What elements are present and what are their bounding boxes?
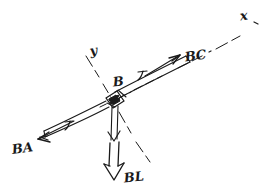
diagram-svg: B x y BA BC BL: [0, 0, 270, 192]
load-label-bl: BL: [122, 168, 145, 185]
load-label-bl-group: BL: [122, 168, 145, 185]
force-label-ba: BA: [10, 139, 34, 157]
force-label-ba-group: BA: [10, 139, 34, 157]
joint-label-b: B: [111, 73, 125, 89]
force-label-bc-group: BC: [183, 46, 208, 64]
paper-background: [0, 0, 270, 192]
force-label-bc: BC: [183, 46, 208, 64]
free-body-diagram-canvas: B x y BA BC BL: [0, 0, 270, 192]
